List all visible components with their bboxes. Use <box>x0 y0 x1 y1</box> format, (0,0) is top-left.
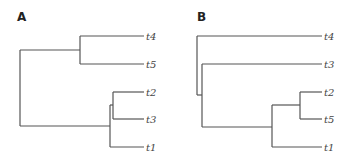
tree-b-branches <box>197 36 322 147</box>
tree-a-leaf-t1: t1 <box>146 142 156 153</box>
tree-b-leaf-t2: t2 <box>324 87 334 98</box>
tree-b-leaf-labels: t4 t3 t2 t5 t1 <box>324 31 334 153</box>
tree-a-leaf-t2: t2 <box>146 87 156 98</box>
panel-b-label: B <box>197 10 206 24</box>
panel-a: A t4 t5 t2 t3 t1 <box>17 10 156 153</box>
phylogenetic-trees-figure: A t4 t5 t2 t3 t1 <box>0 0 351 160</box>
tree-b-leaf-t5: t5 <box>324 114 334 125</box>
tree-a-leaf-labels: t4 t5 t2 t3 t1 <box>146 31 156 153</box>
tree-b-leaf-t1: t1 <box>324 142 334 153</box>
tree-b-leaf-t4: t4 <box>324 31 334 42</box>
tree-a-branches <box>20 36 144 147</box>
tree-b-leaf-t3: t3 <box>324 59 334 70</box>
tree-a-leaf-t3: t3 <box>146 114 156 125</box>
tree-a-leaf-t5: t5 <box>146 59 156 70</box>
tree-a-leaf-t4: t4 <box>146 31 156 42</box>
panel-a-label: A <box>17 10 27 24</box>
panel-b: B t4 t3 t2 t5 t1 <box>197 10 334 153</box>
